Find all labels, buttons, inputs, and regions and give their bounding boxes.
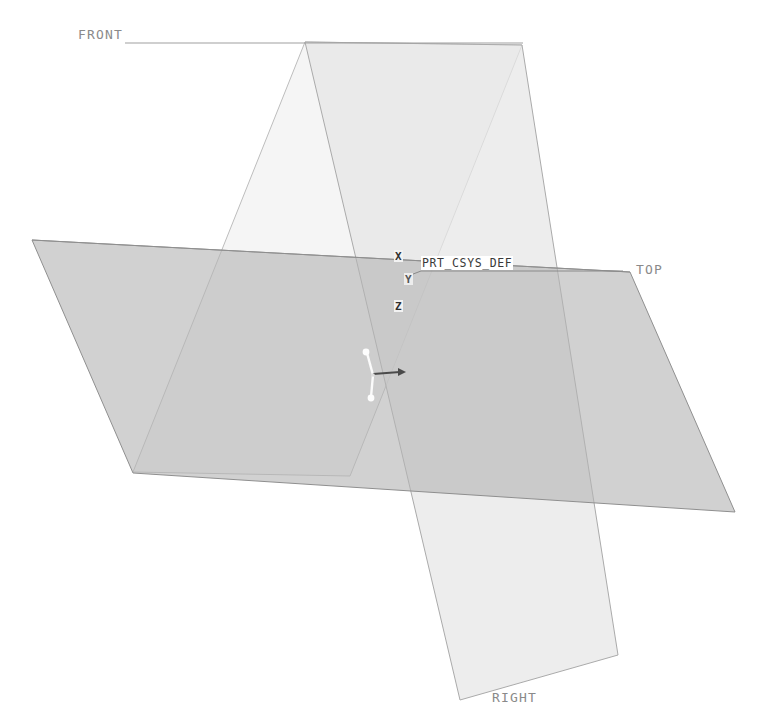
datum-plane-label-top[interactable]: TOP bbox=[636, 262, 663, 277]
csys-axis-label-z: Z bbox=[394, 300, 403, 312]
datum-plane-top[interactable] bbox=[32, 240, 735, 512]
csys-axis-label-y: Y bbox=[404, 273, 413, 285]
cad-viewport[interactable]: FRONT TOP RIGHT PRT_CSYS_DEF X Y Z bbox=[0, 0, 765, 728]
csys-origin bbox=[371, 373, 375, 377]
datum-plane-label-right[interactable]: RIGHT bbox=[492, 690, 537, 705]
datum-geometry bbox=[0, 0, 765, 728]
datum-plane-label-front[interactable]: FRONT bbox=[78, 27, 123, 42]
csys-axis-y-tip bbox=[363, 349, 370, 356]
csys-axis-z-tip bbox=[368, 395, 375, 402]
csys-name-label[interactable]: PRT_CSYS_DEF bbox=[421, 256, 513, 270]
csys-axis-label-x: X bbox=[394, 250, 403, 262]
